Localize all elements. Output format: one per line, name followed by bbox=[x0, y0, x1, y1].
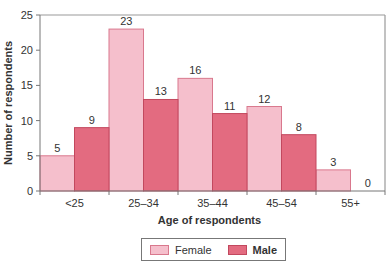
legend-label-female: Female bbox=[175, 244, 212, 256]
bar-male-0 bbox=[75, 128, 110, 191]
y-axis-title: Number of respondents bbox=[2, 41, 14, 165]
x-tick-label: 55+ bbox=[341, 197, 360, 209]
data-label: 16 bbox=[189, 64, 201, 76]
data-label: 9 bbox=[89, 114, 95, 126]
legend-label-male: Male bbox=[253, 244, 277, 256]
legend-item-male: Male bbox=[228, 244, 277, 256]
x-tick-label: 35–44 bbox=[197, 197, 228, 209]
x-tick-label: 45–54 bbox=[266, 197, 297, 209]
data-label: 3 bbox=[330, 156, 336, 168]
bar-male-1 bbox=[144, 99, 179, 191]
y-tick-label: 15 bbox=[21, 79, 33, 91]
x-axis-title: Age of respondents bbox=[158, 214, 261, 226]
x-tick-label: <25 bbox=[65, 197, 84, 209]
data-label: 12 bbox=[258, 93, 270, 105]
y-tick-label: 0 bbox=[27, 185, 33, 197]
data-label: 8 bbox=[296, 121, 302, 133]
male-swatch bbox=[228, 245, 247, 255]
y-tick-label: 20 bbox=[21, 44, 33, 56]
y-tick-label: 5 bbox=[27, 150, 33, 162]
legend-item-female: Female bbox=[150, 244, 212, 256]
female-swatch bbox=[150, 245, 169, 255]
plot-area: 5231612391311800510152025<2525–3435–4445… bbox=[2, 9, 385, 226]
bar-female-3 bbox=[247, 107, 282, 191]
y-tick-label: 25 bbox=[21, 9, 33, 21]
x-tick-label: 25–34 bbox=[128, 197, 159, 209]
data-label: 0 bbox=[365, 177, 371, 189]
y-tick-label: 10 bbox=[21, 115, 33, 127]
data-label: 23 bbox=[120, 15, 132, 27]
data-label: 5 bbox=[54, 142, 60, 154]
bar-female-4 bbox=[316, 170, 351, 191]
bar-female-1 bbox=[109, 29, 144, 191]
bar-chart: 5231612391311800510152025<2525–3435–4445… bbox=[0, 0, 389, 240]
bar-female-0 bbox=[40, 156, 75, 191]
bar-male-3 bbox=[282, 135, 317, 191]
data-label: 11 bbox=[224, 100, 235, 112]
bar-female-2 bbox=[178, 78, 213, 191]
data-label: 13 bbox=[155, 85, 167, 97]
bar-male-2 bbox=[213, 114, 248, 191]
legend: Female Male bbox=[141, 238, 286, 261]
